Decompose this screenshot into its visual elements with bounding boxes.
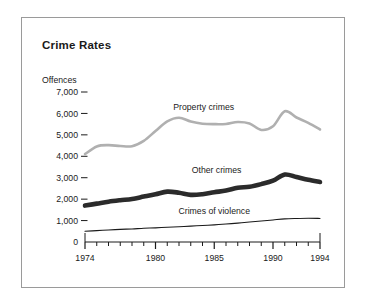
series-label-crimes-of-violence: Crimes of violence — [179, 206, 251, 216]
y-tick-label: 6,000 — [56, 109, 78, 119]
series-line-crimes-of-violence — [85, 218, 320, 231]
series-line-other-crimes — [85, 174, 320, 205]
y-tick-label: 0 — [73, 237, 78, 247]
figure-root: Crime Rates Offences 01,0002,0003,0004,0… — [0, 0, 367, 305]
x-tick-label: 1990 — [263, 253, 282, 263]
y-tick-label: 7,000 — [56, 87, 78, 97]
series-line-property-crimes — [85, 111, 320, 154]
x-tick-label: 1974 — [75, 253, 94, 263]
x-axis-line — [85, 233, 320, 242]
series-label-property-crimes: Property crimes — [173, 102, 234, 112]
x-axis: 19741980198519901994 — [75, 233, 329, 263]
y-tick-label: 5,000 — [56, 130, 78, 140]
x-tick-label: 1994 — [310, 253, 329, 263]
y-tick-label: 3,000 — [56, 173, 78, 183]
series-label-other-crimes: Other crimes — [192, 165, 242, 175]
y-tick-label: 4,000 — [56, 151, 78, 161]
x-tick-label: 1980 — [146, 253, 165, 263]
line-chart-plot: 01,0002,0003,0004,0005,0006,0007,000 197… — [0, 0, 367, 305]
y-tick-label: 2,000 — [56, 194, 78, 204]
y-axis-ticks: 01,0002,0003,0004,0005,0006,0007,000 — [56, 87, 87, 247]
y-tick-label: 1,000 — [56, 216, 78, 226]
x-tick-label: 1985 — [205, 253, 224, 263]
